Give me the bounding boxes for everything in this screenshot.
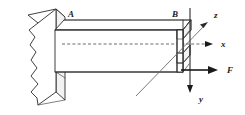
axis-y-label: y — [198, 94, 204, 104]
beam-front-face — [55, 30, 183, 72]
axis-y-arrowhead — [187, 85, 193, 93]
lower-flange-block — [183, 45, 190, 63]
diagram-canvas: z y x F A B — [0, 0, 245, 115]
force-label: F — [226, 65, 233, 75]
axis-x: x — [186, 39, 226, 49]
applied-force-vector: F — [181, 65, 233, 75]
axis-y: y — [187, 8, 204, 104]
beam-bottom-back-edge — [183, 64, 189, 72]
lower-flange-end-face — [177, 53, 183, 63]
beam-top-face — [55, 20, 191, 30]
force-arrowhead — [208, 66, 218, 74]
axis-z-label: z — [213, 10, 218, 20]
axis-z-arrowhead — [200, 22, 208, 28]
axis-x-arrowhead — [205, 41, 213, 47]
point-a-label: A — [67, 9, 74, 19]
point-b-label: B — [171, 9, 178, 19]
axis-x-label: x — [220, 39, 226, 49]
cantilever-beam — [55, 20, 191, 72]
beam-diagram-figure: z y x F A B — [0, 0, 245, 115]
wall-front-face — [29, 9, 56, 105]
